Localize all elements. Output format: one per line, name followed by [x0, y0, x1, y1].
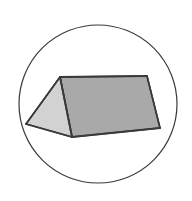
ridge-edge: [60, 76, 147, 77]
figure-canvas: [0, 0, 192, 201]
right-slope-face: [60, 76, 160, 137]
geometry-figure-svg: [0, 0, 192, 201]
